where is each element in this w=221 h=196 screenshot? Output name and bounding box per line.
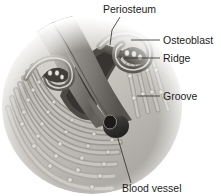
label-blood-vessel: Blood vessel: [122, 182, 182, 194]
label-ridge: Ridge: [163, 52, 191, 64]
bone-histology-figure: Periosteum Osteoblast Ridge Groove Blood…: [0, 0, 221, 196]
edge-vignette: [0, 14, 184, 194]
illustration-canvas: Periosteum Osteoblast Ridge Groove Blood…: [0, 0, 221, 196]
illustration-body: [0, 0, 184, 194]
label-osteoblast: Osteoblast: [163, 34, 213, 46]
label-periosteum: Periosteum: [103, 3, 156, 15]
label-groove: Groove: [163, 90, 198, 102]
